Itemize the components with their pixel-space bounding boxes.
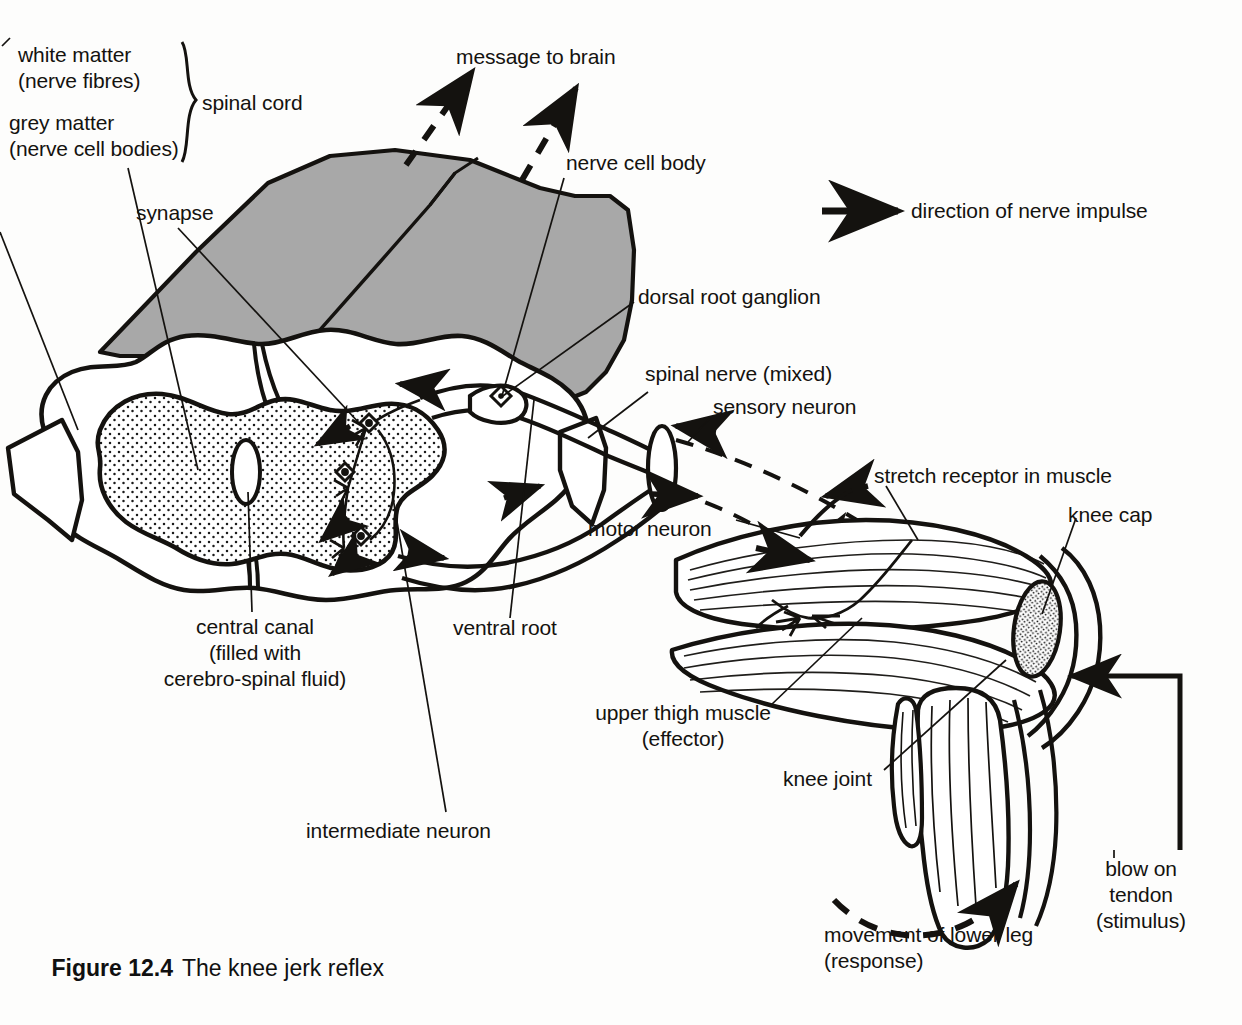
label-dorsal-root-ganglion: dorsal root ganglion xyxy=(638,284,820,310)
label-synapse: synapse xyxy=(136,200,214,226)
blow-on-tendon-arrow xyxy=(1072,676,1180,850)
label-blow-on-tendon-line3: (stimulus) xyxy=(1066,908,1216,934)
label-central-canal-line3: cerebro-spinal fluid) xyxy=(150,666,360,692)
label-sensory-neuron: sensory neuron xyxy=(713,394,856,420)
label-central-canal-line2: (filled with xyxy=(150,640,360,666)
label-movement-lower-leg-line2: (response) xyxy=(824,948,923,974)
label-knee-joint: knee joint xyxy=(783,766,872,792)
label-knee-cap: knee cap xyxy=(1068,502,1152,528)
label-central-canal-line1: central canal xyxy=(150,614,360,640)
label-blow-on-tendon-line2: tendon xyxy=(1066,882,1216,908)
label-message-to-brain: message to brain xyxy=(456,44,616,70)
figure-page: white matter (nerve fibres) grey matter … xyxy=(0,0,1242,1025)
label-movement-lower-leg-line1: movement of lower leg xyxy=(824,922,1033,948)
label-upper-thigh-muscle-line1: upper thigh muscle xyxy=(586,700,780,726)
label-intermediate-neuron: intermediate neuron xyxy=(306,818,491,844)
label-white-matter-line1: white matter xyxy=(18,42,131,68)
label-ventral-root: ventral root xyxy=(453,615,557,641)
label-spinal-cord: spinal cord xyxy=(202,90,302,116)
central-canal-shape xyxy=(232,440,260,504)
label-upper-thigh-muscle-line2: (effector) xyxy=(586,726,780,752)
figure-number: Figure 12.4 xyxy=(52,955,173,981)
figure-title: The knee jerk reflex xyxy=(182,955,384,981)
label-blow-on-tendon-line1: blow on xyxy=(1066,856,1216,882)
label-stretch-receptor: stretch receptor in muscle xyxy=(874,463,1112,489)
label-motor-neuron: motor neuron xyxy=(588,516,712,542)
figure-caption: Figure 12.4The knee jerk reflex xyxy=(26,928,384,1009)
label-grey-matter-line2: (nerve cell bodies) xyxy=(9,136,179,162)
legend-label: direction of nerve impulse xyxy=(911,198,1148,224)
spinal-cord-brace-icon xyxy=(176,40,202,169)
label-spinal-nerve-mixed: spinal nerve (mixed) xyxy=(645,361,832,387)
lower-leg-bones xyxy=(892,688,1056,948)
label-grey-matter-line1: grey matter xyxy=(9,110,114,136)
label-white-matter-line2: (nerve fibres) xyxy=(18,68,140,94)
label-nerve-cell-body: nerve cell body xyxy=(566,150,706,176)
